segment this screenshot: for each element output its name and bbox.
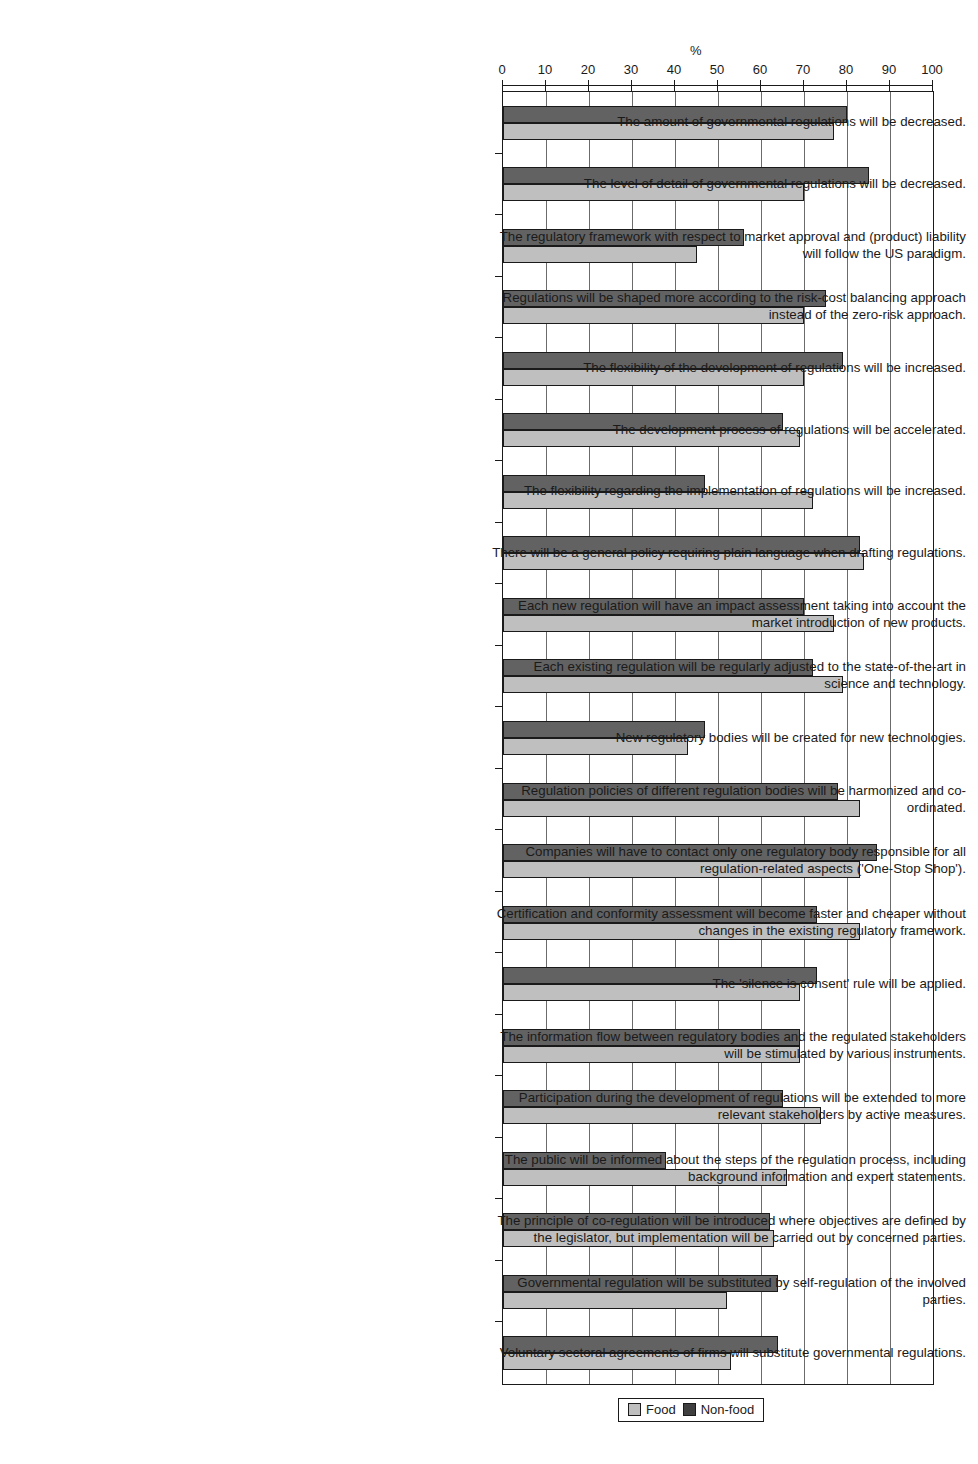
- x-tick-label-40: 40: [667, 62, 681, 78]
- category-label: The information flow between regulatory …: [486, 1028, 978, 1062]
- y-axis-tick: [495, 1198, 502, 1199]
- chart-legend: Food Non-food: [618, 1398, 764, 1422]
- category-label: The 'silence is consent' rule will be ap…: [486, 975, 978, 992]
- y-axis-tick: [495, 768, 502, 769]
- y-axis-tick: [495, 645, 502, 646]
- legend-label-food: Food: [646, 1402, 676, 1417]
- category-label: The level of detail of governmental regu…: [486, 175, 978, 192]
- y-axis-tick: [495, 583, 502, 584]
- y-axis-tick: [495, 276, 502, 277]
- category-label: Certification and conformity assessment …: [486, 905, 978, 939]
- y-axis-tick: [495, 153, 502, 154]
- category-label: Governmental regulation will be substitu…: [486, 1274, 978, 1308]
- y-axis-tick: [495, 829, 502, 830]
- x-tick-label-30: 30: [624, 62, 638, 78]
- category-label: Companies will have to contact only one …: [486, 843, 978, 877]
- y-axis-tick: [495, 399, 502, 400]
- x-tick-label-20: 20: [581, 62, 595, 78]
- y-axis-tick: [495, 1321, 502, 1322]
- y-axis-tick: [495, 214, 502, 215]
- x-tick-label-80: 80: [839, 62, 853, 78]
- y-axis-tick: [495, 1014, 502, 1015]
- legend-entry-nonfood: Non-food: [683, 1402, 754, 1417]
- category-label: The development process of regulations w…: [486, 421, 978, 438]
- x-tick-mark-30: [631, 80, 632, 91]
- category-label: There will be a general policy requiring…: [486, 544, 978, 561]
- x-tick-label-70: 70: [796, 62, 810, 78]
- category-label: The flexibility of the development of re…: [486, 359, 978, 376]
- x-tick-mark-60: [760, 80, 761, 91]
- x-axis-title: %: [690, 44, 702, 58]
- y-axis-tick: [495, 706, 502, 707]
- horizontal-bar-chart: % 0102030405060708090100 The amount of g…: [0, 0, 978, 1464]
- category-label: The regulatory framework with respect to…: [486, 228, 978, 262]
- x-tick-label-10: 10: [538, 62, 552, 78]
- x-tick-label-90: 90: [882, 62, 896, 78]
- x-tick-label-100: 100: [921, 62, 943, 78]
- x-tick-mark-70: [803, 80, 804, 91]
- legend-entry-food: Food: [628, 1402, 676, 1417]
- category-label: Voluntary sectoral agreements of firms w…: [486, 1344, 978, 1361]
- y-axis-tick: [495, 337, 502, 338]
- category-label: Participation during the development of …: [486, 1089, 978, 1123]
- category-label: The principle of co-regulation will be i…: [486, 1212, 978, 1246]
- x-tick-mark-10: [545, 80, 546, 91]
- x-tick-mark-40: [674, 80, 675, 91]
- x-tick-label-0: 0: [498, 62, 505, 78]
- y-axis-tick: [495, 1137, 502, 1138]
- y-axis-tick: [495, 460, 502, 461]
- y-axis-tick: [495, 1260, 502, 1261]
- category-label: Regulation policies of different regulat…: [486, 782, 978, 816]
- category-label: The flexibility regarding the implementa…: [486, 482, 978, 499]
- x-tick-mark-50: [717, 80, 718, 91]
- x-tick-mark-90: [889, 80, 890, 91]
- page-edge-artifact: [0, 1440, 978, 1464]
- x-axis-tick-labels: 0102030405060708090100: [0, 62, 978, 78]
- x-tick-mark-20: [588, 80, 589, 91]
- x-tick-mark-80: [846, 80, 847, 91]
- nonfood-swatch-icon: [683, 1403, 696, 1416]
- x-tick-mark-100: [932, 80, 933, 91]
- x-tick-label-60: 60: [753, 62, 767, 78]
- x-tick-mark-0: [502, 80, 503, 91]
- category-label: The public will be informed about the st…: [486, 1151, 978, 1185]
- category-label: The amount of governmental regulations w…: [486, 113, 978, 130]
- y-axis-tick: [495, 952, 502, 953]
- category-label: Each new regulation will have an impact …: [486, 597, 978, 631]
- food-swatch-icon: [628, 1403, 641, 1416]
- legend-label-nonfood: Non-food: [701, 1402, 754, 1417]
- y-axis-tick: [495, 522, 502, 523]
- category-label: Regulations will be shaped more accordin…: [486, 289, 978, 323]
- category-label: New regulatory bodies will be created fo…: [486, 729, 978, 746]
- category-label: Each existing regulation will be regular…: [486, 658, 978, 692]
- y-axis-tick: [495, 1075, 502, 1076]
- y-axis-tick: [495, 891, 502, 892]
- x-tick-label-50: 50: [710, 62, 724, 78]
